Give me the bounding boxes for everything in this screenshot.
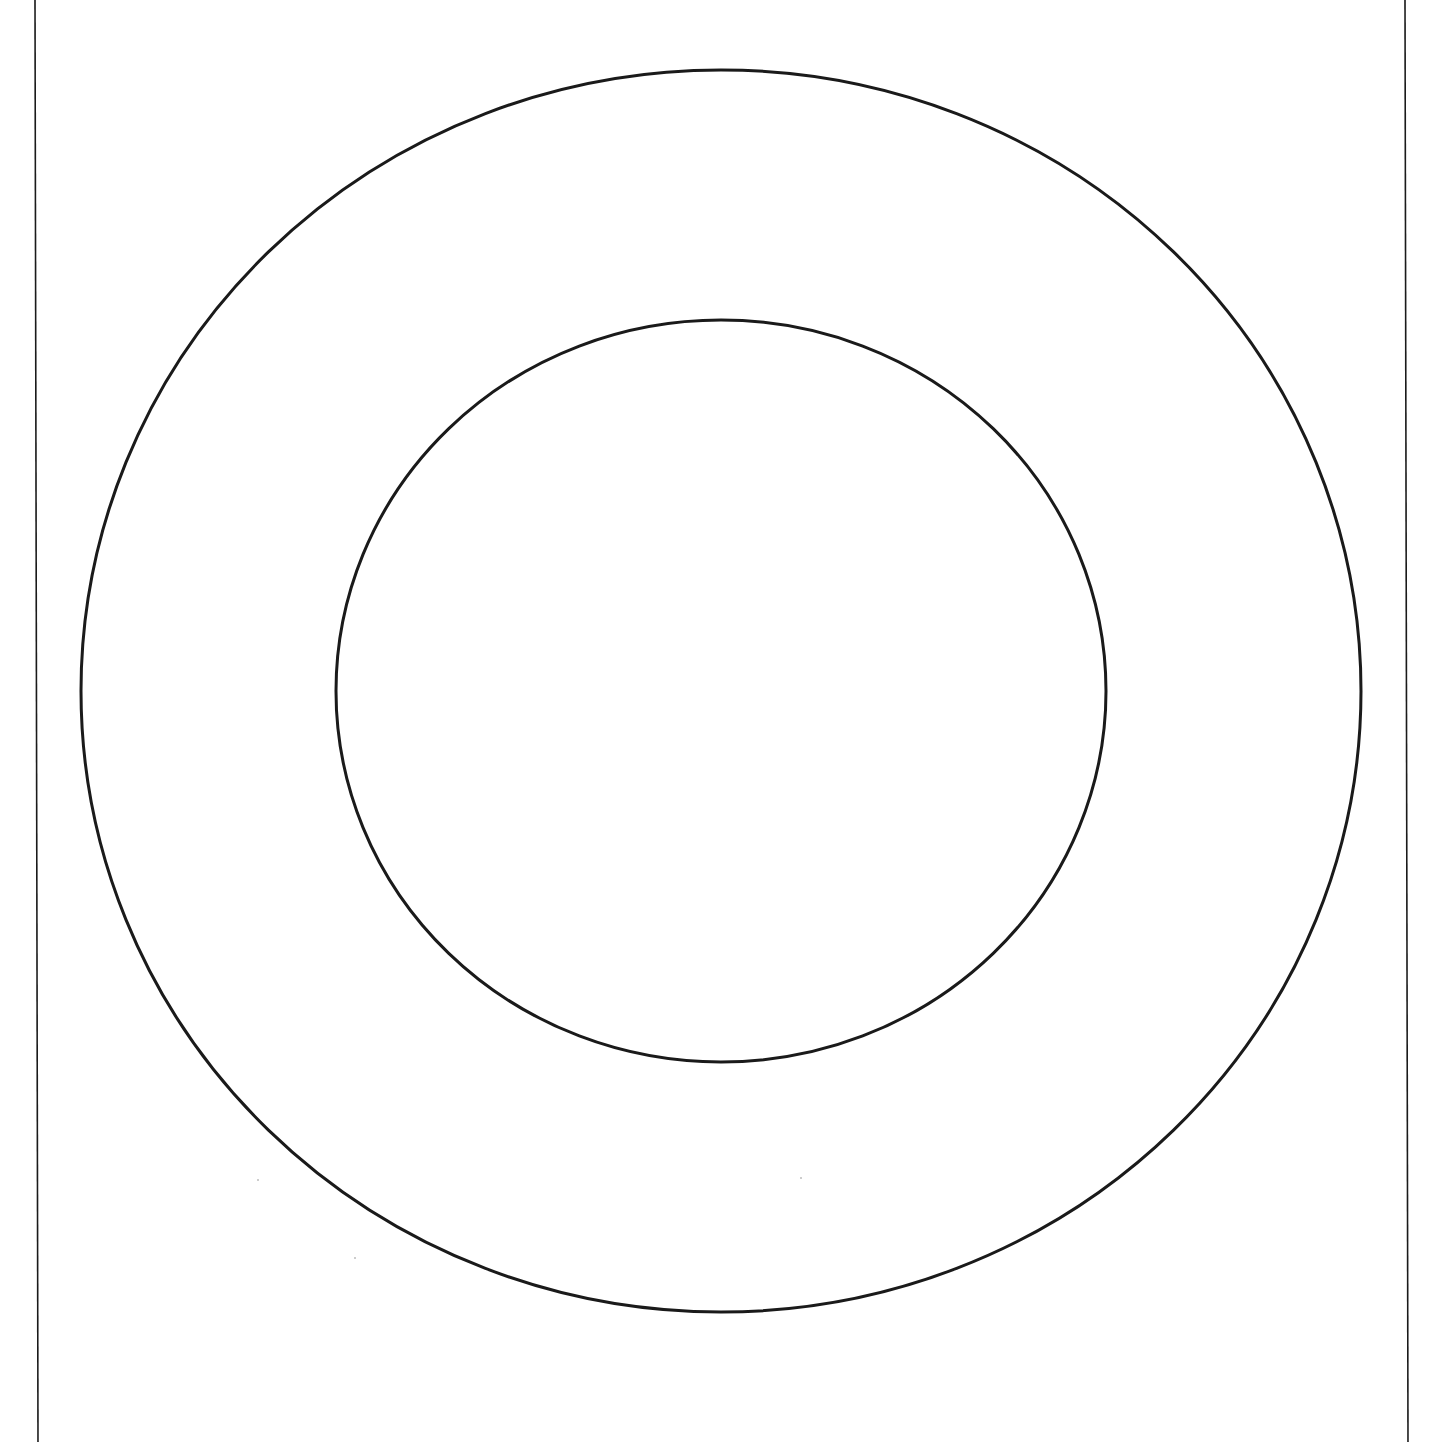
speck-1 — [257, 1179, 259, 1181]
ring-diagram — [0, 0, 1456, 1442]
speck-3 — [800, 1177, 802, 1179]
background — [0, 0, 1456, 1442]
speck-2 — [354, 1257, 356, 1259]
